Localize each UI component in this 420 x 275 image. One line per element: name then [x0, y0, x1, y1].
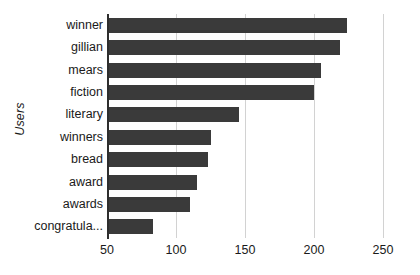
- y-axis-tick-label: gillian: [30, 41, 103, 54]
- bar[interactable]: [107, 85, 314, 100]
- y-axis-tick-label: fiction: [30, 86, 103, 99]
- y-axis-line: [107, 14, 109, 239]
- x-axis-tick-label: 250: [373, 243, 394, 257]
- bar[interactable]: [107, 130, 211, 145]
- bar[interactable]: [107, 63, 321, 78]
- y-axis-tick-label: congratula...: [30, 220, 103, 233]
- y-axis-tick-label: mears: [30, 64, 103, 77]
- x-axis-tick-label: 200: [304, 243, 325, 257]
- bar-chart: Users winnergillianmearsfictionliteraryw…: [0, 0, 420, 275]
- y-axis-tick-label: winners: [30, 131, 103, 144]
- bar[interactable]: [107, 40, 340, 55]
- x-axis-tick-label: 150: [235, 243, 256, 257]
- plot-area: [107, 14, 383, 238]
- y-axis-tick-labels: winnergillianmearsfictionliterarywinners…: [30, 14, 103, 238]
- x-axis-tick-label: 50: [100, 243, 114, 257]
- y-axis-title: Users: [13, 102, 27, 136]
- gridline: [383, 14, 384, 238]
- bar[interactable]: [107, 107, 239, 122]
- bar[interactable]: [107, 175, 197, 190]
- x-axis-tick-labels: 50100150200250: [0, 243, 420, 267]
- y-axis-tick-label: literary: [30, 108, 103, 121]
- y-axis-tick-label: awards: [30, 198, 103, 211]
- y-axis-tick-label: winner: [30, 19, 103, 32]
- bar[interactable]: [107, 152, 208, 167]
- x-axis-tick-label: 100: [166, 243, 187, 257]
- bar[interactable]: [107, 197, 190, 212]
- y-axis-tick-label: bread: [30, 153, 103, 166]
- bar[interactable]: [107, 219, 153, 234]
- bar[interactable]: [107, 18, 347, 33]
- y-axis-tick-label: award: [30, 176, 103, 189]
